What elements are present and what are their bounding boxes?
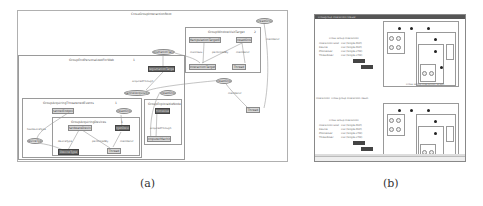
outer-group-label: CrossGroupInteractionRoot bbox=[131, 12, 171, 16]
panel-a-caption: (a) bbox=[140, 177, 155, 190]
form-value: CGI (Single-PDP) bbox=[341, 42, 362, 45]
graph-node bbox=[422, 71, 427, 76]
form-label: Interaction Goal bbox=[319, 42, 339, 45]
graph-panel bbox=[383, 103, 459, 157]
create-button[interactable] bbox=[361, 147, 373, 151]
diagram-node: ToolManipulationTargetEvent bbox=[189, 37, 221, 43]
diagram-node: ChannelAcquisition bbox=[124, 90, 150, 96]
graph-node bbox=[429, 71, 434, 76]
diagram-node: HardwareDevice bbox=[68, 125, 92, 131]
form-value: CGI (Single-CTM) bbox=[341, 54, 362, 57]
create-button[interactable] bbox=[353, 141, 365, 145]
form-title: Cross Group Interaction bbox=[329, 119, 359, 122]
diagram-node: ThreadGroup bbox=[160, 90, 176, 96]
graph-node bbox=[398, 109, 401, 112]
diagram-node: DeviceType bbox=[58, 149, 79, 155]
form-value: CGI (Single-CTM) bbox=[341, 132, 362, 135]
form-label: Device bbox=[319, 46, 328, 49]
graph-node bbox=[434, 38, 437, 41]
diagram-node: Thread bbox=[246, 107, 260, 113]
graph-node bbox=[434, 50, 437, 53]
graph-node bbox=[427, 109, 430, 112]
panel-b-caption: (b) bbox=[383, 177, 399, 190]
diagram-node: InteractionTarget bbox=[189, 64, 216, 70]
form-label: ThreadUser bbox=[319, 54, 333, 57]
edge-label: deviceType bbox=[58, 140, 72, 143]
graph-node bbox=[440, 66, 443, 69]
graph-node bbox=[389, 45, 394, 50]
edge-label: acquiredThrough bbox=[132, 80, 153, 83]
form-value: CGI (Single-PDP) bbox=[341, 128, 362, 131]
diagram-node: ThreadGroup bbox=[116, 108, 132, 114]
form-value: CGI (Single-CTM) bbox=[341, 50, 362, 53]
graph-node bbox=[389, 118, 394, 123]
app-window: Crossgroup Interaction Viewer Cross Grou… bbox=[314, 14, 466, 162]
group-label: GroupAcquiringDevices bbox=[71, 120, 106, 124]
edge-label: memberOf bbox=[266, 38, 279, 41]
diagram-node: PhoneUser bbox=[155, 108, 170, 114]
window-titlebar: Crossgroup Interaction Viewer bbox=[315, 15, 465, 19]
form-label: PhoneUser bbox=[319, 132, 332, 135]
graph-node bbox=[427, 27, 430, 30]
window-title: Crossgroup Interaction Viewer bbox=[318, 16, 356, 19]
diagram-node: RegistrationTarget bbox=[152, 49, 175, 55]
group-number: 1 bbox=[121, 120, 123, 124]
diagram-node: ThreadGroup bbox=[256, 18, 273, 24]
diagram-node: ThreadGroup bbox=[236, 37, 252, 43]
graph-node bbox=[398, 27, 401, 30]
edge-label: hasDeviceType bbox=[27, 128, 46, 131]
graph-subgroup bbox=[446, 126, 454, 142]
form-label: ThreadUser bbox=[319, 136, 333, 139]
group-number: 2 bbox=[254, 30, 256, 34]
create-button[interactable] bbox=[361, 65, 373, 69]
group-label: GroupWindowVisitTarget bbox=[208, 30, 245, 34]
form-label: Device bbox=[319, 128, 328, 131]
diagram-node: ComputerMachine bbox=[147, 136, 171, 142]
diagram-node: ThreadGroup bbox=[216, 78, 232, 84]
edge-label: memberOf bbox=[120, 140, 133, 143]
graph-node bbox=[389, 36, 394, 41]
group-label: GroupAcquiringThreatenedEvents bbox=[43, 101, 94, 105]
form-label: PhoneUser bbox=[319, 50, 332, 53]
edge-label: manifests bbox=[190, 51, 202, 54]
graph-node bbox=[396, 36, 401, 41]
create-button[interactable] bbox=[353, 59, 365, 63]
diagram-node: DeviceType bbox=[27, 138, 43, 144]
form-label: Interaction Goal bbox=[319, 124, 339, 127]
diagram-node: RegistrationTarget bbox=[148, 66, 175, 72]
group-number: 1 bbox=[133, 58, 135, 62]
diagram-node: TargetDevice bbox=[115, 125, 130, 131]
form-title: Cross Group Interaction bbox=[329, 37, 359, 40]
graph-subgroup bbox=[446, 44, 454, 60]
graph-caption: Cross Group Interaction Graph bbox=[406, 83, 444, 86]
form-value: CGI (Single-CTM) bbox=[341, 136, 362, 139]
graph-node bbox=[396, 118, 401, 123]
status-bar bbox=[315, 156, 465, 161]
form-value: CGI (Single-PDP) bbox=[341, 124, 362, 127]
graph-node bbox=[389, 127, 394, 132]
graph-node bbox=[396, 45, 401, 50]
graph-node bbox=[410, 27, 413, 30]
group-number: 1 bbox=[115, 101, 117, 105]
graph-node bbox=[410, 109, 413, 112]
graph-node bbox=[396, 127, 401, 132]
graph-panel: Cross Group Interaction Graph bbox=[383, 21, 459, 87]
edge-label: memberOf bbox=[228, 92, 241, 95]
diagram-node: Thread bbox=[107, 148, 121, 154]
group-label: GroupExplorableNode bbox=[148, 102, 181, 106]
graph-node bbox=[434, 120, 437, 123]
diagram-node: Thread bbox=[232, 64, 246, 70]
form-value: CGI (Single-PDP) bbox=[341, 46, 362, 49]
graph-node bbox=[434, 132, 437, 135]
middle-status-text: Interaction: Cross group interaction res… bbox=[316, 97, 368, 100]
edge-label: memberOf bbox=[236, 51, 249, 54]
edge-label: performedBy bbox=[92, 140, 108, 143]
group-label: GroupEndPersonalizedForWeb bbox=[69, 58, 114, 62]
edge-label: performedBy bbox=[212, 51, 228, 54]
diagram-node: ChannelEndpoint bbox=[52, 108, 74, 114]
edge-label: acquiredThrough bbox=[150, 127, 171, 130]
